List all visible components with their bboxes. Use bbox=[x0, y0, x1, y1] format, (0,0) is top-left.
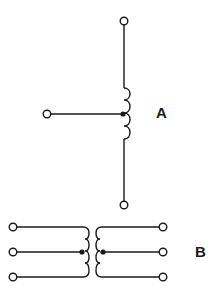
terminal-left-a bbox=[43, 110, 51, 118]
terminal-bottom-a bbox=[120, 201, 128, 209]
terminal-right-mid-b bbox=[159, 248, 167, 256]
diagram-a-tapped-inductor bbox=[43, 17, 130, 209]
terminal-top-a bbox=[120, 17, 128, 25]
terminal-right-bot-b bbox=[159, 273, 167, 281]
label-b: B bbox=[195, 243, 206, 260]
terminal-left-top-b bbox=[9, 223, 17, 231]
terminal-right-top-b bbox=[159, 223, 167, 231]
terminal-left-mid-b bbox=[9, 248, 17, 256]
diagram-b-transformer bbox=[9, 223, 167, 281]
tap-junction-left-b bbox=[79, 249, 84, 254]
schematic-canvas bbox=[0, 0, 215, 296]
tap-junction-a bbox=[120, 111, 125, 116]
terminal-left-bot-b bbox=[9, 273, 17, 281]
label-a: A bbox=[156, 104, 167, 121]
